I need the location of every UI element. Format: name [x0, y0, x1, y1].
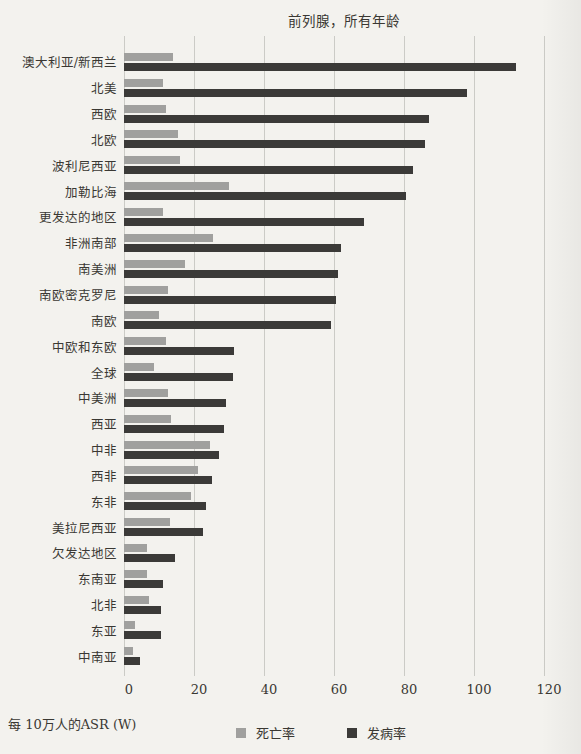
legend-item-incidence: 发病率 [347, 723, 406, 742]
mortality-bar [124, 363, 154, 371]
category-label: 北欧 [0, 127, 117, 153]
chart-row [124, 566, 560, 592]
category-label: 东南亚 [0, 566, 117, 592]
legend-item-mortality: 死亡率 [236, 723, 295, 742]
x-tick-label: 40 [261, 682, 278, 697]
category-label: 中美洲 [0, 385, 117, 411]
prostate-asr-bar-chart: 前列腺，所有年龄 澳大利亚/新西兰北美西欧北欧波利尼西亚加勒比海更发达的地区非洲… [0, 0, 581, 754]
incidence-bar [124, 425, 224, 433]
mortality-bar [124, 518, 170, 526]
incidence-bar [124, 580, 163, 588]
category-label: 澳大利亚/新西兰 [0, 49, 117, 75]
chart-row [124, 540, 560, 566]
incidence-bar [124, 140, 425, 148]
legend-label-incidence: 发病率 [367, 723, 406, 742]
incidence-bar [124, 192, 406, 200]
chart-row [124, 618, 560, 644]
mortality-bar [124, 570, 147, 578]
chart-row [124, 463, 560, 489]
category-label: 北美 [0, 75, 117, 101]
incidence-bar [124, 296, 336, 304]
category-label: 波利尼西亚 [0, 152, 117, 178]
category-label: 更发达的地区 [0, 204, 117, 230]
chart-row [124, 230, 560, 256]
mortality-bar [124, 234, 213, 242]
chart-row [124, 256, 560, 282]
mortality-bar [124, 621, 135, 629]
chart-title: 前列腺，所有年龄 [129, 10, 559, 30]
mortality-bar [124, 389, 168, 397]
mortality-bar [124, 79, 163, 87]
incidence-bar [124, 528, 203, 536]
incidence-bar [124, 502, 206, 510]
mortality-bar [124, 53, 173, 61]
x-tick-label: 120 [537, 682, 562, 697]
incidence-bar [124, 244, 341, 252]
incidence-bar [124, 451, 219, 459]
incidence-bar [124, 321, 331, 329]
incidence-bar [124, 89, 467, 97]
category-labels: 澳大利亚/新西兰北美西欧北欧波利尼西亚加勒比海更发达的地区非洲南部南美洲南欧密克… [0, 36, 124, 669]
category-label: 加勒比海 [0, 178, 117, 204]
chart-row [124, 307, 560, 333]
incidence-bar [124, 373, 233, 381]
chart-row [124, 411, 560, 437]
incidence-bar [124, 63, 516, 71]
legend: 死亡率 发病率 [236, 723, 406, 742]
x-tick-label: 100 [467, 682, 492, 697]
chart-row [124, 385, 560, 411]
x-tick-label: 0 [125, 682, 133, 697]
incidence-bar [124, 166, 413, 174]
incidence-bar [124, 115, 429, 123]
category-label: 东非 [0, 488, 117, 514]
bar-rows [124, 36, 560, 669]
mortality-bar [124, 156, 180, 164]
category-label: 全球 [0, 359, 117, 385]
category-label: 欠发达地区 [0, 540, 117, 566]
mortality-bar [124, 182, 229, 190]
mortality-bar [124, 208, 163, 216]
mortality-bar [124, 286, 168, 294]
incidence-swatch-icon [347, 728, 357, 738]
mortality-bar [124, 130, 178, 138]
x-tick-label: 20 [191, 682, 208, 697]
category-label: 西非 [0, 463, 117, 489]
category-label: 非洲南部 [0, 230, 117, 256]
category-label: 中非 [0, 437, 117, 463]
category-label: 中欧和东欧 [0, 333, 117, 359]
mortality-bar [124, 337, 166, 345]
mortality-bar [124, 647, 133, 655]
mortality-bar [124, 415, 171, 423]
incidence-bar [124, 606, 161, 614]
chart-row [124, 514, 560, 540]
mortality-bar [124, 260, 185, 268]
chart-row [124, 204, 560, 230]
category-label: 南欧 [0, 307, 117, 333]
plot-area [124, 36, 560, 676]
incidence-bar [124, 476, 212, 484]
chart-row [124, 152, 560, 178]
chart-row [124, 592, 560, 618]
mortality-bar [124, 441, 210, 449]
category-label: 西亚 [0, 411, 117, 437]
incidence-bar [124, 631, 161, 639]
category-label: 南欧密克罗尼 [0, 282, 117, 308]
incidence-bar [124, 218, 364, 226]
x-axis-title: 每 10万人的ASR (W) [8, 714, 136, 733]
chart-row [124, 333, 560, 359]
mortality-swatch-icon [236, 728, 246, 738]
category-label: 东亚 [0, 618, 117, 644]
x-tick-label: 60 [331, 682, 348, 697]
chart-row [124, 127, 560, 153]
incidence-bar [124, 270, 338, 278]
chart-row [124, 101, 560, 127]
chart-row [124, 282, 560, 308]
legend-label-mortality: 死亡率 [256, 723, 295, 742]
category-label: 中南亚 [0, 643, 117, 669]
x-tick-label: 80 [401, 682, 418, 697]
chart-row [124, 178, 560, 204]
incidence-bar [124, 347, 234, 355]
chart-row [124, 75, 560, 101]
chart-row [124, 437, 560, 463]
chart-row [124, 359, 560, 385]
